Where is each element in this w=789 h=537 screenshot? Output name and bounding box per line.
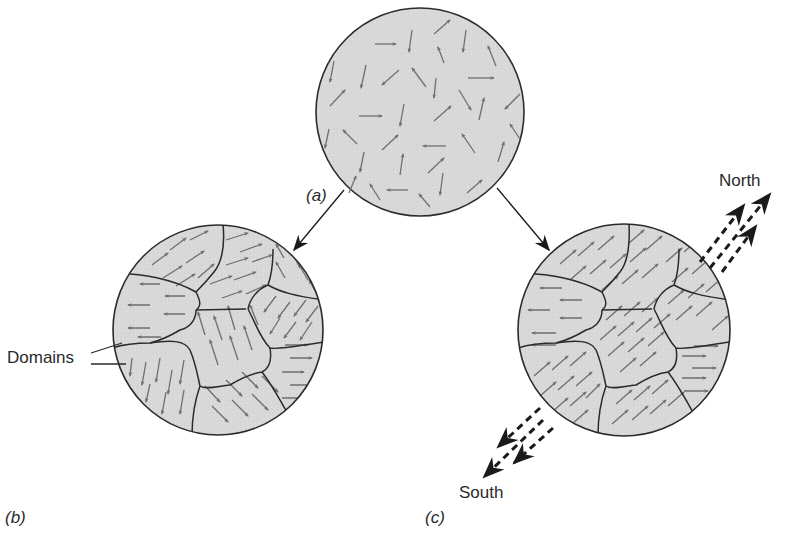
south-label: South — [459, 483, 503, 503]
south-field-arrows — [484, 408, 553, 477]
connector-arrow-to-c — [497, 188, 549, 250]
panel-b-label: (b) — [5, 508, 26, 528]
panel-a-random-dipoles — [316, 8, 524, 216]
north-label: North — [719, 171, 761, 191]
domains-label: Domains — [7, 348, 74, 368]
magnetic-domains-figure — [0, 0, 789, 537]
panel-a-label: (a) — [306, 186, 327, 206]
panel-b-unmagnetized-domains — [112, 224, 324, 436]
north-field-arrows — [700, 194, 770, 272]
panel-c-magnetized-domains — [518, 224, 730, 436]
panel-c-label: (c) — [425, 508, 445, 528]
